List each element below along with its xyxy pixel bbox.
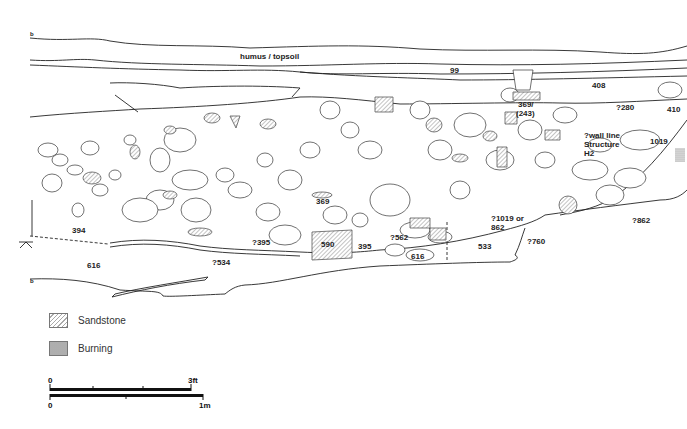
structure-annotation: Structure (584, 140, 620, 149)
context-label: 533 (478, 242, 491, 251)
context-label: 862 (491, 223, 504, 232)
context-label: ?1019 or (491, 214, 524, 223)
context-label: 410 (667, 105, 680, 114)
context-label: 590 (321, 240, 334, 249)
wall-line-annotation: ?wall line (584, 131, 620, 140)
context-label: 99 (450, 66, 459, 75)
legend-item-burning: Burning (49, 341, 112, 356)
context-label: 1019 (650, 137, 668, 146)
context-label: ?760 (527, 237, 545, 246)
burning-area (675, 148, 685, 162)
scale-imperial-end: 3ft (188, 376, 198, 385)
burning-swatch-icon (49, 341, 68, 356)
stones (38, 70, 682, 261)
topsoil-label: humus / topsoil (240, 52, 299, 61)
structure-id-annotation: H2 (584, 149, 594, 158)
section-drawing-svg (0, 0, 687, 429)
context-label: 616 (411, 252, 424, 261)
context-label: ?395 (252, 238, 270, 247)
context-label: 395 (358, 242, 371, 251)
scale-metric-start: 0 (48, 401, 52, 410)
context-label: ?862 (632, 216, 650, 225)
legend-label: Burning (78, 343, 112, 354)
context-label: 408 (592, 81, 605, 90)
context-label: ?562 (390, 233, 408, 242)
section-drawing: b b humus / topsoil 99 408 369/ (243) ?2… (0, 0, 687, 429)
corner-label-bottom: b (30, 277, 34, 286)
context-label: (243) (516, 109, 535, 118)
sandstone-swatch-icon (49, 313, 68, 328)
context-label: ?280 (616, 103, 634, 112)
context-label: 394 (72, 226, 85, 235)
scale-metric-end: 1m (199, 401, 211, 410)
scale-imperial-start: 0 (48, 376, 52, 385)
context-label: ?534 (212, 258, 230, 267)
datum-marker-icon (19, 242, 33, 248)
legend-item-sandstone: Sandstone (49, 313, 126, 328)
context-label: 369/ (518, 100, 534, 109)
context-label: 616 (87, 261, 100, 270)
corner-label-top: b (30, 30, 34, 39)
legend-label: Sandstone (78, 315, 126, 326)
context-label: 369 (316, 197, 329, 206)
scale-bar (50, 384, 203, 400)
